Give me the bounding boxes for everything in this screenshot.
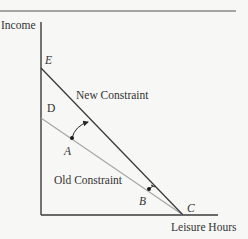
shift-arrow-a — [72, 122, 88, 138]
point-c-label: C — [187, 203, 195, 215]
diagram-canvas: Income Leisure Hours New Constraint Old … — [0, 0, 248, 239]
point-b-label: B — [139, 196, 146, 208]
point-e-label: E — [45, 55, 52, 67]
diagram-graphics — [0, 0, 248, 239]
point-b-marker — [147, 187, 151, 191]
point-a-label: A — [64, 146, 71, 158]
point-a-marker — [70, 136, 74, 140]
x-axis-label: Leisure Hours — [171, 222, 236, 234]
old-constraint-label: Old Constraint — [54, 175, 122, 187]
point-d-label: D — [47, 103, 55, 115]
new-constraint-label: New Constraint — [76, 90, 149, 102]
y-axis-label: Income — [1, 20, 35, 32]
old-constraint-line — [41, 118, 183, 215]
